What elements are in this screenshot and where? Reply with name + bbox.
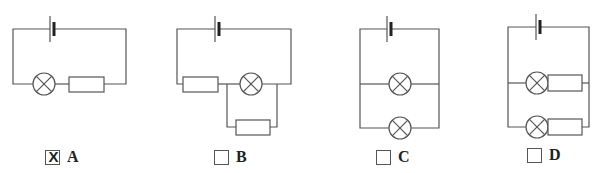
resistor-icon	[548, 119, 582, 135]
lamp-icon	[33, 73, 55, 95]
lamp-icon	[389, 73, 411, 95]
circuit-d	[508, 14, 589, 138]
resistor-icon	[183, 77, 218, 92]
circuit-diagrams	[0, 0, 592, 173]
circuit-c	[360, 16, 439, 139]
lamp-icon	[526, 72, 548, 94]
lamp-icon	[389, 117, 411, 139]
checkbox-d[interactable]	[527, 148, 542, 163]
option-label-a: A	[67, 148, 79, 166]
lamp-icon	[526, 116, 548, 138]
option-d[interactable]: D	[527, 146, 561, 164]
option-label-c: C	[398, 148, 410, 166]
lamp-icon	[240, 73, 262, 95]
option-c[interactable]: C	[376, 148, 410, 166]
option-label-b: B	[236, 148, 247, 166]
checkbox-b[interactable]	[214, 150, 229, 165]
option-label-d: D	[549, 146, 561, 164]
circuit-a	[13, 16, 126, 95]
resistor-icon	[548, 75, 582, 91]
option-a[interactable]: X A	[45, 148, 79, 166]
resistor-icon	[69, 77, 104, 92]
resistor-icon	[236, 120, 270, 135]
option-b[interactable]: B	[214, 148, 247, 166]
checkbox-c[interactable]	[376, 150, 391, 165]
checkbox-a[interactable]: X	[45, 150, 60, 165]
circuit-b	[177, 16, 291, 135]
check-mark-icon: X	[46, 148, 61, 166]
